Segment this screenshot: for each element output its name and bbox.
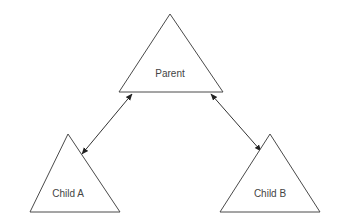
child-a-triangle (30, 134, 120, 212)
child-a-label: Child A (52, 188, 84, 199)
node-child-a[interactable]: Child A (30, 134, 120, 212)
parent-label: Parent (155, 68, 185, 79)
edge-parent-childA[interactable] (82, 94, 132, 154)
node-child-b[interactable]: Child B (220, 134, 320, 212)
edge-parent-childB[interactable] (211, 94, 261, 151)
diagram-canvas: Parent Child A Child B (0, 0, 337, 223)
child-b-label: Child B (254, 188, 287, 199)
parent-triangle (119, 14, 223, 92)
child-b-triangle (220, 134, 320, 212)
node-parent[interactable]: Parent (119, 14, 223, 92)
